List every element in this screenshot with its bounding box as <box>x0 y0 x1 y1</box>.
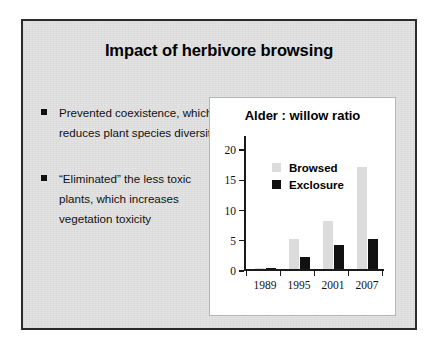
x-axis-tick-label: 2007 <box>356 279 379 291</box>
chart-bar <box>289 239 299 270</box>
legend-swatch-icon <box>272 163 281 172</box>
chart-plot-area: 051015201989199520012007 <box>244 136 380 271</box>
screenshot-page: Impact of herbivore browsing Prevented c… <box>0 0 440 351</box>
chart-bar <box>368 239 378 269</box>
y-axis-tick <box>239 210 244 211</box>
chart-bar <box>357 167 367 270</box>
y-axis-tick <box>239 270 244 271</box>
chart-bar <box>323 221 333 269</box>
list-item-label: Prevented coexistence, which reduces pla… <box>59 106 217 139</box>
x-axis-tick <box>280 271 281 276</box>
x-axis-tick <box>246 271 247 276</box>
y-axis-tick <box>239 149 244 150</box>
y-axis-tick-label: 5 <box>230 235 236 247</box>
legend-item-label: Exclosure <box>289 179 344 191</box>
x-axis-tick <box>314 271 315 276</box>
chart-bar <box>255 268 265 270</box>
x-axis-tick <box>382 271 383 276</box>
y-axis-tick-label: 15 <box>225 174 237 186</box>
y-axis-tick <box>239 240 244 241</box>
chart-legend: BrowsedExclosure <box>272 160 344 194</box>
x-axis-tick-label: 1995 <box>288 279 311 291</box>
y-axis-tick-label: 20 <box>225 144 237 156</box>
list-item-label: “Eliminated” the less toxic plants, whic… <box>59 172 191 225</box>
x-axis-tick-label: 2001 <box>322 279 345 291</box>
chart-panel: Alder : willow ratio 0510152019891995200… <box>209 97 396 316</box>
bullet-list: Prevented coexistence, which reduces pla… <box>39 103 219 255</box>
x-axis-tick-label: 1989 <box>254 279 277 291</box>
list-item: “Eliminated” the less toxic plants, whic… <box>39 169 219 229</box>
chart-bar <box>266 268 276 270</box>
y-axis-tick-label: 10 <box>225 205 237 217</box>
list-item: Prevented coexistence, which reduces pla… <box>39 103 219 143</box>
legend-item-label: Browsed <box>289 162 338 174</box>
y-axis-tick <box>239 180 244 181</box>
chart-bar <box>334 245 344 269</box>
chart-bar <box>300 257 310 269</box>
y-axis <box>244 136 246 271</box>
chart-title: Alder : willow ratio <box>210 108 395 123</box>
legend-item: Exclosure <box>272 177 344 192</box>
legend-item: Browsed <box>272 160 344 175</box>
square-bullet-icon <box>41 109 47 115</box>
presentation-slide: Impact of herbivore browsing Prevented c… <box>21 19 417 330</box>
page-title: Impact of herbivore browsing <box>23 41 415 60</box>
legend-swatch-icon <box>272 180 281 189</box>
y-axis-tick-label: 0 <box>230 265 236 277</box>
x-axis-tick <box>348 271 349 276</box>
square-bullet-icon <box>41 175 47 181</box>
